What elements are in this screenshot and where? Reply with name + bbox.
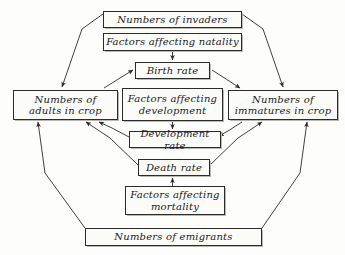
node-numbers-of-adults-in-crop: Numbers of adults in crop <box>13 90 118 120</box>
edge-adults-to-birth <box>104 70 133 88</box>
node-birth-rate: Birth rate <box>135 62 210 79</box>
edge-invaders-to-adults <box>62 14 103 87</box>
node-factors-affecting-natality: Factors affecting natality <box>103 33 242 51</box>
edge-emigrants-to-adults <box>38 122 85 228</box>
edge-immatures-to-devrate <box>219 122 242 136</box>
diagram-canvas: Numbers of invaders Factors affecting na… <box>0 0 345 255</box>
edge-invaders-to-immatures <box>242 14 283 87</box>
node-factors-affecting-mortality: Factors affecting mortality <box>125 186 225 215</box>
node-factors-affecting-development: Factors affecting development <box>122 88 223 121</box>
node-numbers-of-invaders: Numbers of invaders <box>103 11 242 28</box>
node-development-rate: Development rate <box>129 131 221 148</box>
edge-devrate-to-adults <box>99 122 129 137</box>
node-death-rate: Death rate <box>138 159 210 176</box>
node-numbers-of-emigrants: Numbers of emigrants <box>85 228 262 246</box>
edge-birth-to-immatures <box>212 70 240 88</box>
node-numbers-of-immatures-in-crop: Numbers of immatures in crop <box>228 90 338 120</box>
edge-emigrants-to-immatures <box>262 122 307 228</box>
